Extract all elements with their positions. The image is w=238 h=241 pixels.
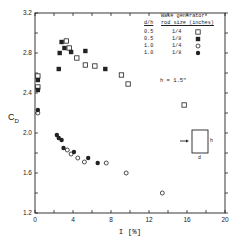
data-point-filled-circle xyxy=(86,156,90,160)
data-point-filled-circle xyxy=(36,108,40,112)
data-point-filled-circle xyxy=(61,146,65,150)
x-tick-label: 20 xyxy=(221,216,229,223)
legend-row-dh: 1.0 xyxy=(144,50,153,57)
y-tick-label: 3.2 xyxy=(23,9,32,16)
y-tick-label: 2.4 xyxy=(23,89,32,96)
data-point-open-circle xyxy=(160,191,164,195)
data-point-open-circle xyxy=(82,160,86,164)
data-point-filled-square xyxy=(36,88,40,92)
legend-header-rod: rod size (inches) xyxy=(161,20,214,27)
legend-row-rod: 1/8 xyxy=(172,36,181,43)
data-point-open-circle xyxy=(124,171,128,175)
x-axis-label: I [%] xyxy=(119,228,142,236)
data-point-open-circle xyxy=(65,148,69,152)
y-tick-label: 1.2 xyxy=(23,209,32,216)
legend-marker-filled-circle xyxy=(196,51,200,55)
legend-row-rod: 1/4 xyxy=(172,43,181,50)
legend-header-dh: d/h xyxy=(144,20,153,27)
inset-label-d: d xyxy=(198,155,201,161)
data-point-open-square xyxy=(126,82,130,86)
x-tick-label: 12 xyxy=(145,216,153,223)
legend-row-rod: 1/8 xyxy=(172,50,181,57)
data-point-filled-square xyxy=(103,67,107,71)
data-point-open-circle xyxy=(76,156,80,160)
cylinder-cross-section xyxy=(192,130,208,153)
legend-marker-filled-square xyxy=(196,37,200,41)
data-point-filled-square xyxy=(36,78,40,82)
y-tick-label: 2.0 xyxy=(23,129,32,136)
data-point-filled-square xyxy=(83,49,87,53)
legend-header-wake: Wake generator xyxy=(161,13,205,20)
y-axis-label-subscript: D xyxy=(15,118,20,124)
x-tick-label: 8 xyxy=(109,216,113,223)
height-annotation: h = 1.5" xyxy=(160,77,186,84)
flow-arrow-head-icon xyxy=(186,140,189,143)
y-tick-label: 2.8 xyxy=(23,49,32,56)
data-point-filled-square xyxy=(59,40,63,44)
y-tick-label: 1.6 xyxy=(23,169,32,176)
inset-label-h: h xyxy=(210,138,213,144)
data-point-open-square xyxy=(75,56,79,60)
legend-row-dh: 1.0 xyxy=(144,43,153,50)
data-point-open-square xyxy=(83,63,87,67)
data-point-open-square xyxy=(119,73,123,77)
legend-marker-open-square xyxy=(196,30,200,34)
legend-row-dh: 0.5 xyxy=(144,29,153,36)
data-point-filled-square xyxy=(69,50,73,54)
x-tick-label: 16 xyxy=(183,216,191,223)
data-point-open-square xyxy=(93,64,97,68)
x-tick-label: 4 xyxy=(71,216,75,223)
data-point-open-square xyxy=(36,74,40,78)
data-point-open-square xyxy=(67,46,71,50)
legend-marker-open-circle xyxy=(196,44,200,48)
data-point-filled-circle xyxy=(96,161,100,165)
data-point-filled-circle xyxy=(72,150,76,154)
legend-row-rod: 1/4 xyxy=(172,29,181,36)
data-point-filled-square xyxy=(58,51,62,55)
data-point-open-square xyxy=(64,39,68,43)
legend-row-dh: 0.5 xyxy=(144,36,153,43)
data-point-open-circle xyxy=(104,161,108,165)
x-tick-label: 0 xyxy=(33,216,37,223)
data-point-open-square xyxy=(182,103,186,107)
data-point-filled-square xyxy=(62,46,66,50)
drag-coefficient-scatter-chart: 0481216201.21.62.02.42.83.2CDI [%]hd xyxy=(0,0,238,241)
data-point-filled-square xyxy=(57,67,61,71)
data-point-filled-circle xyxy=(59,138,63,142)
